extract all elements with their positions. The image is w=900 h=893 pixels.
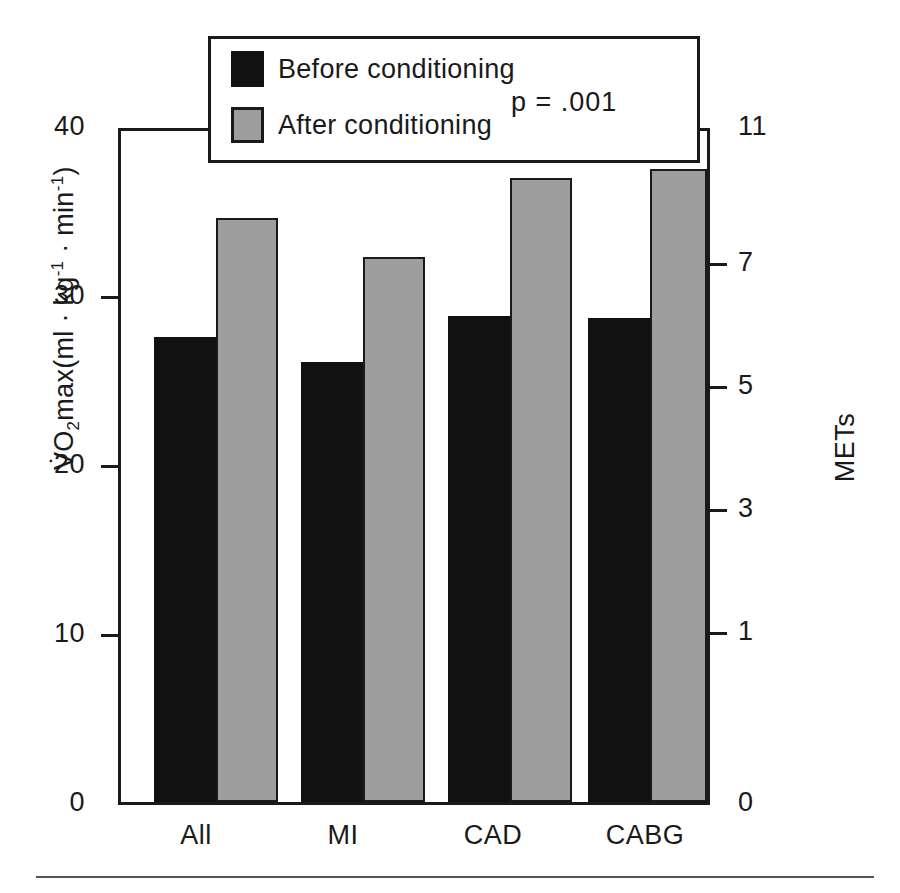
y2-axis-tick-label-3: 3: [738, 495, 754, 522]
legend: Before conditioning After conditioning p…: [208, 36, 700, 163]
x-axis-label-cad: CAD: [448, 820, 538, 851]
y-axis-tick-mark-20: [101, 465, 118, 468]
bar-before-mi[interactable]: [301, 362, 363, 802]
y2-axis-tick-label-0: 0: [738, 789, 754, 816]
p-value-annotation: p = .001: [511, 87, 617, 118]
bar-before-cabg[interactable]: [588, 318, 650, 802]
x-axis-label-cabg: CABG: [590, 820, 700, 851]
y-axis-tick-label-10: 10: [54, 620, 85, 647]
bars-layer: [121, 128, 707, 802]
y-axis-title-sup1: -1: [48, 261, 67, 277]
y-axis-title-mid: · min: [49, 191, 79, 260]
y-axis-title: V̇O2max(ml · kg-1 · min-1): [48, 108, 84, 528]
y2-axis-tick-mark-3: [710, 509, 727, 512]
y2-axis-title: METs: [830, 393, 861, 503]
legend-label-after: After conditioning: [278, 110, 492, 141]
bottom-divider: [36, 876, 874, 878]
y2-axis-tick-label-1: 1: [738, 618, 754, 645]
y-axis-tick-label-0: 0: [69, 789, 85, 816]
y2-axis-tick-mark-5: [710, 386, 727, 389]
y2-axis-tick-mark-1: [710, 632, 727, 635]
y-axis-title-o: O: [49, 430, 79, 451]
y2-axis-tick-label-5: 5: [738, 372, 754, 399]
legend-label-before: Before conditioning: [278, 54, 515, 85]
bar-after-mi[interactable]: [363, 257, 425, 802]
y2-axis-tick-label-7: 7: [738, 249, 754, 276]
x-axis-label-all: All: [156, 820, 236, 851]
v-dot-accent: V̇: [49, 452, 79, 470]
y-axis-title-sub2: 2: [64, 421, 83, 431]
bar-before-all[interactable]: [154, 337, 216, 802]
bar-chart-figure: 40 30 20 10 0 11 7 5 3 1 0 V̇O2max(ml · …: [0, 0, 900, 893]
y-axis-tick-mark-10: [101, 634, 118, 637]
bar-before-cad[interactable]: [448, 316, 510, 802]
legend-item-after[interactable]: After conditioning: [231, 107, 492, 143]
bar-after-all[interactable]: [216, 218, 278, 802]
legend-item-before[interactable]: Before conditioning: [231, 51, 515, 87]
y2-axis-tick-label-11: 11: [738, 113, 767, 140]
x-axis-label-mi: MI: [303, 820, 383, 851]
bar-after-cabg[interactable]: [650, 169, 707, 802]
y2-axis-tick-mark-7: [710, 263, 727, 266]
gray-swatch-icon: [231, 107, 264, 143]
y-axis-title-maxopen: max(ml · kg: [49, 276, 79, 420]
bar-after-cad[interactable]: [510, 178, 572, 802]
y-axis-title-close: ): [49, 166, 79, 175]
y-axis-tick-mark-30: [101, 296, 118, 299]
black-swatch-icon: [231, 51, 264, 87]
y-axis-title-sup2: -1: [48, 176, 67, 192]
